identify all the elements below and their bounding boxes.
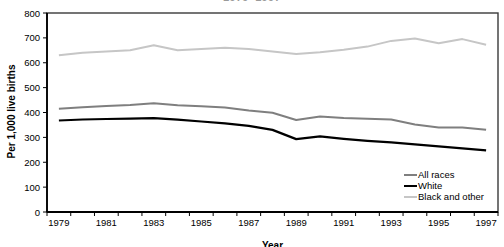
line-chart: 0100200300400500600700800197919811983198… xyxy=(0,0,504,247)
legend: All races White Black and other xyxy=(404,169,484,202)
y-tick-label: 100 xyxy=(24,182,40,193)
series-line-white xyxy=(59,118,486,150)
series-line-all-races xyxy=(59,103,486,129)
y-tick-label: 700 xyxy=(24,32,40,43)
x-tick-label: 1979 xyxy=(48,217,69,228)
legend-item-all-races: All races xyxy=(404,169,484,180)
white-line-swatch xyxy=(404,185,417,187)
x-tick-label: 1981 xyxy=(96,217,117,228)
x-tick-label: 1985 xyxy=(191,217,212,228)
all-races-line-swatch xyxy=(404,174,417,176)
x-tick-label: 1987 xyxy=(238,217,259,228)
y-tick-label: 600 xyxy=(24,57,40,68)
legend-item-white: White xyxy=(404,180,484,191)
legend-label-black-and-other: Black and other xyxy=(418,191,484,202)
legend-label-all-races: All races xyxy=(418,169,454,180)
y-tick-label: 400 xyxy=(24,107,40,118)
chart-canvas: 1979–1997 010020030040050060070080019791… xyxy=(0,0,504,247)
y-tick-label: 0 xyxy=(35,207,40,218)
y-tick-label: 300 xyxy=(24,132,40,143)
x-axis-title: Year xyxy=(47,239,498,247)
x-tick-label: 1993 xyxy=(381,217,402,228)
x-tick-label: 1989 xyxy=(286,217,307,228)
black-and-other-line-swatch xyxy=(404,196,417,198)
x-tick-label: 1983 xyxy=(143,217,164,228)
series-line-black-and-other xyxy=(59,38,486,55)
legend-label-white: White xyxy=(418,180,442,191)
x-tick-label: 1997 xyxy=(476,217,497,228)
y-tick-label: 500 xyxy=(24,82,40,93)
x-tick-label: 1995 xyxy=(428,217,449,228)
y-tick-label: 800 xyxy=(24,8,40,19)
legend-item-black-and-other: Black and other xyxy=(404,191,484,202)
x-tick-label: 1991 xyxy=(333,217,354,228)
y-tick-label: 200 xyxy=(24,157,40,168)
y-axis-title: Per 1,000 live births xyxy=(6,57,17,167)
